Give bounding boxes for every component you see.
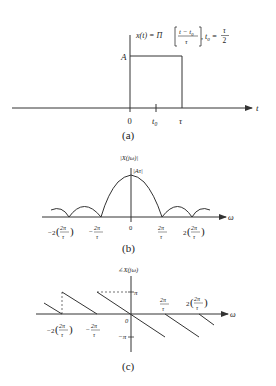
t-axis-label: t: [256, 103, 259, 113]
peak-label: |Aτ|: [133, 167, 143, 174]
svg-text:−2: −2: [48, 229, 56, 237]
tick-0: 0: [128, 116, 132, 126]
pi-label: π: [134, 289, 138, 297]
rect-pulse: [130, 56, 182, 108]
svg-text:2π: 2π: [94, 225, 101, 231]
tick-neg-2pi-tau: − 2π τ: [89, 225, 103, 240]
tick-2-2pi-tau: 2 ( 2π τ ): [183, 225, 205, 240]
phase-y-label: ∠X(jω): [118, 266, 138, 274]
svg-text:2π: 2π: [91, 323, 98, 329]
svg-text:τ: τ: [223, 26, 226, 35]
svg-text:t − t0: t − t0: [179, 28, 194, 37]
tick-tau: τ: [179, 116, 183, 126]
omega-label-c: ω: [230, 310, 236, 319]
svg-text:2π: 2π: [191, 225, 198, 231]
tick-t0: t0: [152, 116, 157, 127]
svg-text:τ: τ: [61, 332, 64, 338]
svg-text:τ: τ: [193, 234, 196, 240]
tick-neg-2pi-tau-c: − 2π τ: [86, 323, 100, 338]
caption-b: (b): [122, 242, 135, 255]
caption-a: (a): [122, 129, 135, 142]
svg-text:2π: 2π: [59, 323, 66, 329]
svg-text:τ: τ: [162, 306, 165, 312]
svg-text:−: −: [89, 228, 93, 236]
svg-text:): ): [69, 323, 73, 336]
svg-text:τ: τ: [93, 332, 96, 338]
tick-zero-b: 0: [129, 224, 132, 231]
caption-c: (c): [122, 360, 135, 373]
figure: t A 0 t0 τ x(t) = Π t − t0 τ , t0 = τ 2 …: [0, 0, 276, 386]
panel-a: t A 0 t0 τ x(t) = Π t − t0 τ , t0 = τ 2 …: [12, 26, 259, 142]
amplitude-label: A: [120, 52, 127, 62]
svg-text:x(t) = Π: x(t) = Π: [135, 31, 164, 40]
svg-text:τ: τ: [160, 234, 163, 240]
svg-text:, t0 =: , t0 =: [201, 32, 217, 42]
svg-text:τ: τ: [185, 38, 188, 46]
svg-text:τ: τ: [96, 234, 99, 240]
neg-pi-label: −π: [118, 333, 127, 341]
svg-text:2π: 2π: [60, 225, 67, 231]
omega-label-b: ω: [228, 213, 234, 222]
svg-text:2: 2: [223, 36, 227, 45]
tick-2pi-tau: 2π τ: [158, 225, 167, 240]
svg-text:): ): [204, 296, 208, 309]
svg-text:−: −: [86, 326, 90, 334]
svg-text:2π: 2π: [160, 297, 167, 303]
svg-text:−2: −2: [47, 327, 55, 335]
pulse-formula: x(t) = Π t − t0 τ , t0 = τ 2: [135, 26, 229, 46]
svg-text:2π: 2π: [158, 225, 165, 231]
svg-text:): ): [201, 225, 205, 238]
panel-c: ω ∠X(jω) π −π −2 ( 2π τ ) − 2π: [36, 266, 236, 373]
tick-2pi-tau-c: 2π τ: [160, 297, 169, 312]
svg-text:2π: 2π: [194, 296, 201, 302]
panel-b: ω |X(jω)| |Aτ| −2 ( 2π τ ) − 2π τ 0 2π τ…: [42, 154, 234, 255]
magnitude-y-label: |X(jω)|: [120, 154, 138, 162]
svg-text:τ: τ: [196, 305, 199, 311]
svg-text:): ): [70, 225, 74, 238]
tick-neg-2-2pi-tau: −2 ( 2π τ ): [48, 225, 74, 240]
tick-zero-c: 0: [125, 317, 129, 324]
svg-text:τ: τ: [62, 234, 65, 240]
tick-neg-2-2pi-tau-c: −2 ( 2π τ ): [47, 323, 73, 338]
tick-2-2pi-tau-c: 2 ( 2π τ ): [186, 296, 208, 311]
